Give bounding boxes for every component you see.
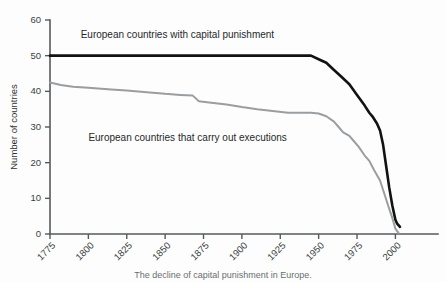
x-axis-group: 1775180018251850187519001925195019752000 bbox=[35, 234, 438, 262]
series-label-group: European countries with capital punishme… bbox=[81, 29, 287, 143]
x-tick-label: 1925 bbox=[265, 240, 288, 263]
x-tick-label: 1875 bbox=[188, 240, 211, 263]
y-tick-label: 60 bbox=[30, 14, 41, 25]
y-axis-title: Number of countries bbox=[8, 84, 19, 170]
figure-caption: The decline of capital punishment in Eur… bbox=[0, 270, 446, 280]
x-tick-label: 2000 bbox=[380, 240, 403, 263]
series-line-2 bbox=[50, 82, 398, 233]
capital-punishment-line-chart: 0102030405060 Number of countries 177518… bbox=[0, 0, 446, 282]
x-tick-label: 1775 bbox=[35, 240, 58, 263]
chart-page: 0102030405060 Number of countries 177518… bbox=[0, 0, 446, 282]
x-tick-group: 1775180018251850187519001925195019752000 bbox=[35, 234, 403, 262]
series-label-2: European countries that carry out execut… bbox=[88, 132, 286, 143]
x-tick-label: 1950 bbox=[303, 240, 326, 263]
y-tick-label: 20 bbox=[30, 157, 41, 168]
x-tick-label: 1850 bbox=[150, 240, 173, 263]
x-tick-label: 1900 bbox=[227, 240, 250, 263]
y-tick-label: 0 bbox=[36, 228, 41, 239]
y-axis-group: 0102030405060 Number of countries bbox=[8, 14, 50, 239]
x-tick-label: 1825 bbox=[111, 240, 134, 263]
y-tick-group: 0102030405060 bbox=[30, 14, 50, 239]
series-group bbox=[50, 56, 400, 233]
y-tick-label: 40 bbox=[30, 85, 41, 96]
series-label-1: European countries with capital punishme… bbox=[81, 29, 275, 40]
y-tick-label: 50 bbox=[30, 50, 41, 61]
y-tick-label: 30 bbox=[30, 121, 41, 132]
x-tick-label: 1975 bbox=[342, 240, 365, 263]
x-tick-label: 1800 bbox=[73, 240, 96, 263]
y-tick-label: 10 bbox=[30, 192, 41, 203]
